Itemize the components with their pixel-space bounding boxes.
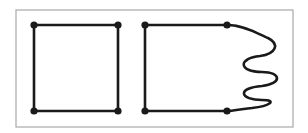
vertex-dot <box>114 107 121 114</box>
vertex-dot <box>30 107 37 114</box>
left-square-vertices <box>30 21 121 114</box>
vertex-dot <box>141 107 148 114</box>
left-square <box>30 21 121 114</box>
wavy-side-curve <box>227 25 277 111</box>
vertex-dot <box>223 107 230 114</box>
diagram-svg <box>0 0 308 133</box>
vertex-dot <box>141 21 148 28</box>
vertex-dot <box>114 21 121 28</box>
right-wavy-shape <box>141 21 277 114</box>
vertex-dot <box>223 21 230 28</box>
diagram-canvas <box>0 0 308 133</box>
right-shape-vertices <box>141 21 230 114</box>
vertex-dot <box>30 21 37 28</box>
figure-frame <box>16 10 293 127</box>
